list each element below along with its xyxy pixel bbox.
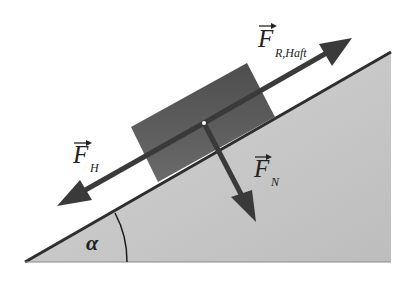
downhill-force-arrowhead	[57, 180, 92, 206]
normal-force-subscript: N	[270, 175, 280, 189]
center-of-mass-dot	[202, 121, 206, 125]
friction-force-label: F R,Haft	[257, 23, 307, 60]
downhill-force-label: F H	[72, 140, 100, 175]
downhill-force-subscript: H	[89, 161, 100, 175]
friction-force-arrowhead	[319, 38, 352, 66]
angle-label: α	[86, 230, 99, 255]
downhill-force-main: F	[72, 141, 89, 168]
friction-force-subscript: R,Haft	[274, 46, 307, 60]
normal-force-main: F	[253, 155, 270, 182]
inclined-plane-diagram: F R,Haft F H F N α	[0, 0, 414, 286]
friction-force-main: F	[257, 25, 274, 52]
